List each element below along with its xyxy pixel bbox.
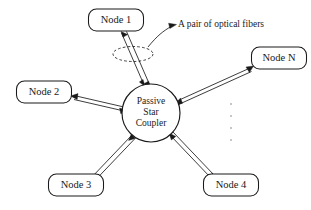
- node-box-node-n[interactable]: Node N: [252, 47, 307, 69]
- node-label-node-2: Node 2: [29, 86, 60, 97]
- more-nodes-ellipsis: [230, 103, 232, 141]
- coupler-label-line-2: Star: [143, 107, 159, 117]
- annotation-leader-line: [148, 23, 177, 47]
- passive-star-coupler-diagram: Passive Star Coupler Node 1 Node 2 Node …: [0, 0, 311, 210]
- node-box-node-2[interactable]: Node 2: [17, 81, 72, 103]
- node-label-node-4: Node 4: [216, 179, 247, 190]
- fiber-link-node-2: [71, 94, 128, 114]
- optical-fiber-pair-label: A pair of optical fibers: [178, 19, 264, 29]
- passive-star-coupler[interactable]: Passive Star Coupler: [122, 84, 180, 142]
- coupler-label-line-1: Passive: [137, 96, 166, 106]
- node-label-node-n: Node N: [263, 52, 296, 63]
- node-box-node-1[interactable]: Node 1: [89, 9, 144, 31]
- node-box-node-3[interactable]: Node 3: [49, 174, 104, 196]
- fiber-link-node-4: [169, 132, 216, 180]
- node-box-node-4[interactable]: Node 4: [204, 174, 259, 196]
- node-label-node-1: Node 1: [101, 14, 132, 25]
- fiber-link-node-n: [176, 66, 254, 106]
- coupler-label-line-3: Coupler: [136, 118, 167, 128]
- diagram-canvas: Passive Star Coupler Node 1 Node 2 Node …: [0, 0, 311, 210]
- fiber-link-node-1: [121, 32, 151, 88]
- node-label-node-3: Node 3: [61, 179, 92, 190]
